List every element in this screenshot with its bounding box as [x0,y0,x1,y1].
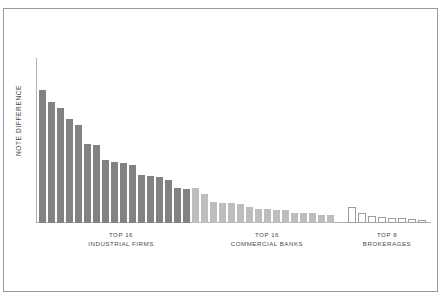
bar-industrial-11 [129,165,136,223]
bar-group-banks [192,63,334,223]
bar-banks-15 [318,215,325,223]
bar-industrial-8 [102,160,109,223]
bar-brokerages-1 [348,207,356,223]
bar-brokerages-4 [378,217,386,223]
bar-brokerages-2 [358,213,366,223]
bar-banks-13 [300,213,307,223]
bar-banks-8 [255,209,262,223]
bar-group-brokerages [348,63,426,223]
bar-industrial-12 [138,175,145,223]
group-caption-banks-line2: COMMERCIAL BANKS [202,240,332,249]
bar-industrial-4 [66,119,73,223]
bar-banks-7 [246,207,253,223]
bar-banks-9 [264,209,271,223]
group-caption-banks-line1: TOP 16 [255,231,279,238]
bar-industrial-7 [93,145,100,223]
figure-frame: NOTE DIFFERENCE TOP 16 INDUSTRIAL FIRMS … [3,8,438,292]
bar-industrial-1 [39,90,46,223]
bar-industrial-14 [156,177,163,223]
bar-industrial-10 [120,163,127,223]
group-caption-industrial: TOP 16 INDUSTRIAL FIRMS [56,231,186,248]
plot-area: NOTE DIFFERENCE TOP 16 INDUSTRIAL FIRMS … [4,9,439,293]
group-caption-banks: TOP 16 COMMERCIAL BANKS [202,231,332,248]
bar-industrial-15 [165,180,172,223]
bar-brokerages-6 [398,218,406,223]
bar-industrial-2 [48,102,55,223]
group-caption-brokerages-line2: BROKERAGES [322,240,442,249]
bar-brokerages-3 [368,216,376,223]
bar-industrial-5 [75,125,82,223]
bar-banks-2 [201,194,208,223]
bar-brokerages-5 [388,218,396,223]
bar-industrial-6 [84,144,91,223]
bar-brokerages-7 [408,219,416,223]
bar-banks-11 [282,210,289,223]
bar-banks-4 [219,203,226,223]
y-axis-line [36,58,37,223]
group-caption-brokerages-line1: TOP 8 [377,231,397,238]
y-axis-label: NOTE DIFFERENCE [15,66,22,176]
group-caption-industrial-line2: INDUSTRIAL FIRMS [56,240,186,249]
group-caption-brokerages: TOP 8 BROKERAGES [322,231,442,248]
bar-banks-3 [210,202,217,223]
bar-banks-14 [309,213,316,223]
top-caption-strip [0,0,442,7]
bar-industrial-3 [57,108,64,223]
bar-group-industrial [39,63,190,223]
bar-industrial-17 [183,189,190,223]
bar-banks-10 [273,210,280,223]
bar-brokerages-8 [418,220,426,223]
bar-industrial-13 [147,176,154,223]
bar-banks-1 [192,188,199,223]
bar-banks-5 [228,203,235,223]
bar-banks-12 [291,213,298,223]
bar-industrial-16 [174,188,181,223]
bar-industrial-9 [111,162,118,223]
group-caption-industrial-line1: TOP 16 [109,231,133,238]
bar-banks-16 [327,215,334,223]
bar-banks-6 [237,204,244,223]
